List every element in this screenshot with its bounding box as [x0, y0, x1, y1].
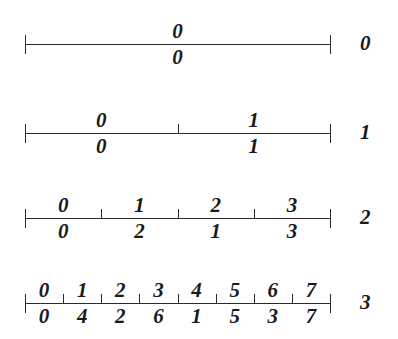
row-level-label: 0: [360, 33, 371, 54]
axis-line: [25, 303, 330, 304]
index-label-top: 1: [178, 110, 331, 131]
row-level-label: 1: [360, 122, 371, 143]
index-label-top: 0: [25, 110, 178, 131]
index-label-bottom: 0: [25, 136, 178, 157]
index-label-bottom: 0: [25, 306, 63, 327]
index-label-bottom: 2: [101, 306, 139, 327]
index-label-top: 2: [101, 280, 139, 301]
axis-end-tick: [330, 35, 331, 54]
axis-end-tick: [330, 124, 331, 143]
index-label-bottom: 0: [25, 47, 330, 68]
index-label-top: 0: [25, 21, 330, 42]
index-label-top: 0: [25, 195, 101, 216]
bit-reversal-figure: 0000101101230213201234567042615373: [0, 0, 398, 339]
index-label-top: 2: [178, 195, 254, 216]
row-level-label: 2: [360, 207, 371, 228]
index-label-top: 7: [292, 280, 330, 301]
axis-end-tick: [330, 294, 331, 313]
index-label-bottom: 7: [292, 306, 330, 327]
index-label-bottom: 3: [254, 221, 330, 242]
index-label-top: 0: [25, 280, 63, 301]
index-label-top: 6: [254, 280, 292, 301]
index-label-top: 3: [254, 195, 330, 216]
index-label-top: 1: [101, 195, 177, 216]
index-label-top: 1: [63, 280, 101, 301]
index-label-bottom: 5: [216, 306, 254, 327]
index-label-top: 3: [139, 280, 177, 301]
index-label-bottom: 3: [254, 306, 292, 327]
index-label-bottom: 1: [178, 136, 331, 157]
index-label-top: 4: [178, 280, 216, 301]
index-label-bottom: 4: [63, 306, 101, 327]
axis-line: [25, 218, 330, 219]
index-label-bottom: 6: [139, 306, 177, 327]
row-level-label: 3: [360, 292, 371, 313]
index-label-top: 5: [216, 280, 254, 301]
axis-end-tick: [330, 209, 331, 228]
index-label-bottom: 1: [178, 221, 254, 242]
index-label-bottom: 1: [178, 306, 216, 327]
axis-line: [25, 133, 330, 134]
index-label-bottom: 2: [101, 221, 177, 242]
index-label-bottom: 0: [25, 221, 101, 242]
